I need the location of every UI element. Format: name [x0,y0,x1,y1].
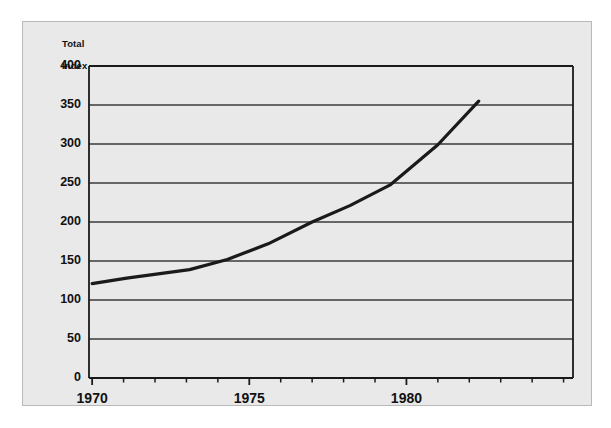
x-axis-tick-label: 1975 [219,390,279,406]
chart-figure: Total Index 050100150200250300350400 197… [0,0,611,428]
data-line-1 [92,101,479,284]
plot-area [0,0,611,428]
data-series-group [92,101,479,284]
y-axis-tick-label: 150 [41,253,81,267]
y-axis-tick-label: 300 [41,136,81,150]
y-axis-tick-label: 200 [41,214,81,228]
x-axis-ticks-group [92,378,563,385]
y-axis-tick-label: 350 [41,97,81,111]
x-axis-tick-label: 1970 [62,390,122,406]
y-axis-tick-label: 400 [41,58,81,72]
x-axis-tick-label: 1980 [376,390,436,406]
y-axis-tick-label: 0 [41,370,81,384]
y-axis-tick-label: 100 [41,292,81,306]
gridlines-group [89,105,573,339]
y-axis-tick-label: 250 [41,175,81,189]
y-axis-tick-label: 50 [41,331,81,345]
